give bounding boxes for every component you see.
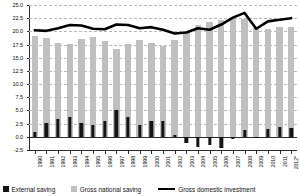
x-tick-mark	[245, 150, 246, 154]
x-tick-mark	[186, 150, 187, 154]
x-tick-label: 1993	[72, 156, 78, 167]
legend-item-gross-domestic-investment: Gross domestic investment	[158, 186, 255, 193]
x-tick-mark	[175, 150, 176, 154]
y-tick-mark	[27, 97, 29, 98]
x-tick-label: 1991	[49, 156, 55, 167]
x-tick-mark	[128, 150, 129, 154]
y-tick-mark	[27, 124, 29, 125]
x-tick-mark	[35, 150, 36, 154]
y-tick-mark	[27, 110, 29, 111]
y-tick-mark	[27, 137, 29, 138]
x-tick-label: 2002	[177, 156, 183, 167]
x-tick-label: 2004	[200, 156, 206, 167]
chart-figure: 25.022.520.017.515.012.510.07.55.02.50.0…	[0, 0, 300, 196]
x-tick-label: 1996	[107, 156, 113, 167]
x-tick-label: 2010	[270, 156, 276, 167]
x-tick-mark	[105, 150, 106, 154]
x-tick-label: 2009	[258, 156, 264, 167]
legend-label: External saving	[12, 186, 56, 193]
x-tick-mark	[46, 150, 47, 154]
x-tick-mark	[140, 150, 141, 154]
x-tick-label: 1992	[60, 156, 66, 167]
x-tick-label: 1990	[37, 156, 43, 167]
x-tick-mark	[116, 150, 117, 154]
y-tick-mark	[27, 84, 29, 85]
x-tick-mark	[58, 150, 59, 154]
x-tick-label: 2003	[189, 156, 195, 167]
x-tick-label: 1998	[130, 156, 136, 167]
y-tick-mark	[27, 31, 29, 32]
x-tick-label: 1997	[119, 156, 125, 167]
x-tick-mark	[81, 150, 82, 154]
y-tick-mark	[27, 45, 29, 46]
x-tick-mark	[221, 150, 222, 154]
x-tick-mark	[151, 150, 152, 154]
x-tick-mark	[70, 150, 71, 154]
x-tick-label: 2005	[212, 156, 218, 167]
legend-item-gross-national-saving: Gross national saving	[71, 186, 141, 193]
y-tick-mark	[27, 150, 29, 151]
x-tick-mark	[256, 150, 257, 154]
chart-legend: External saving Gross national saving Gr…	[3, 184, 297, 194]
legend-line-icon	[158, 188, 175, 191]
y-tick-mark	[27, 18, 29, 19]
x-tick-mark	[93, 150, 94, 154]
legend-item-external-saving: External saving	[3, 186, 55, 193]
x-tick-label: 2001	[165, 156, 171, 167]
x-tick-mark	[163, 150, 164, 154]
x-tick-label: 2007	[235, 156, 241, 167]
x-tick-label: 2006	[223, 156, 229, 167]
x-tick-label: 1999	[142, 156, 148, 167]
x-tick-label: 2012*	[293, 156, 299, 169]
legend-swatch-icon	[3, 186, 9, 192]
x-tick-label: 2008	[247, 156, 253, 167]
x-tick-mark	[291, 150, 292, 154]
x-tick-mark	[233, 150, 234, 154]
legend-swatch-icon	[71, 186, 77, 192]
x-tick-label: 1994	[84, 156, 90, 167]
x-tick-mark	[268, 150, 269, 154]
x-axis-labels: 1990199119921993199419951996199719981999…	[0, 0, 300, 196]
legend-label: Gross national saving	[80, 186, 141, 193]
legend-label: Gross domestic investment	[178, 186, 255, 193]
x-tick-mark	[210, 150, 211, 154]
y-tick-mark	[27, 5, 29, 6]
x-tick-label: 2011	[282, 156, 288, 167]
y-tick-mark	[27, 58, 29, 59]
x-tick-mark	[198, 150, 199, 154]
x-tick-label: 2000	[154, 156, 160, 167]
x-tick-mark	[280, 150, 281, 154]
x-tick-label: 1995	[95, 156, 101, 167]
y-tick-mark	[27, 71, 29, 72]
